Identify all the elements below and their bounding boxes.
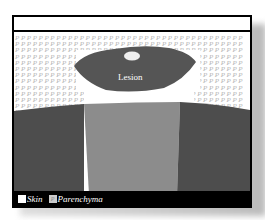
legend-label-skin: Skin xyxy=(27,194,43,204)
title-bar xyxy=(14,17,250,32)
lesion-label: Lesion xyxy=(118,72,143,82)
lesion-core xyxy=(124,52,140,61)
legend-label-parenchyma: Parenchyma xyxy=(58,194,103,204)
diagram-frame: PPPPPPPPPPPPPPPPPPPPPPPPPPPPPPPPPPPPPPPP… xyxy=(12,15,252,208)
tissue-scene: PPPPPPPPPPPPPPPPPPPPPPPPPPPPPPPPPPPPPPPP… xyxy=(14,32,250,195)
legend-bar: Skin P Parenchyma xyxy=(14,191,250,206)
skin-swatch xyxy=(18,195,26,203)
parenchyma-swatch: P xyxy=(49,195,57,203)
